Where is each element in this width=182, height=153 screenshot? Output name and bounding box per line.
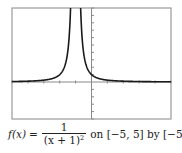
fraction: 1 (x + 1)2 [42, 122, 86, 145]
equals-sign: = [29, 128, 38, 140]
curve-right-branch [81, 8, 171, 82]
fraction-denominator: (x + 1)2 [42, 133, 86, 146]
denominator-base: (x + 1) [44, 134, 80, 146]
fraction-numerator: 1 [59, 122, 70, 133]
axes [12, 8, 171, 119]
window-description: on [−5, 5] by [−5, 10] [90, 128, 182, 140]
figure-caption: f(x) = 1 (x + 1)2 on [−5, 5] by [−5, 10] [8, 122, 182, 145]
function-name: f(x) [8, 128, 26, 140]
function-plot [0, 0, 182, 122]
denominator-exponent: 2 [80, 134, 84, 142]
curve-left-branch [12, 8, 71, 82]
